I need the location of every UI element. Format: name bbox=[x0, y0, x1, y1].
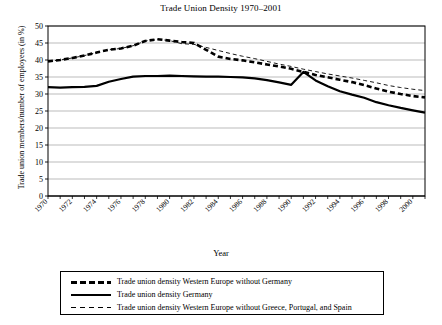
svg-text:1980: 1980 bbox=[154, 197, 171, 214]
svg-text:45: 45 bbox=[35, 39, 43, 48]
svg-text:1996: 1996 bbox=[349, 197, 366, 214]
svg-text:1990: 1990 bbox=[276, 197, 293, 214]
svg-text:2000: 2000 bbox=[397, 197, 414, 214]
svg-text:1992: 1992 bbox=[300, 197, 317, 214]
svg-text:1998: 1998 bbox=[373, 197, 390, 214]
svg-text:5: 5 bbox=[39, 175, 43, 184]
svg-text:1982: 1982 bbox=[178, 197, 195, 214]
x-axis-label: Year bbox=[0, 248, 442, 258]
chart-legend: Trade union density Western Europe witho… bbox=[60, 271, 384, 315]
svg-text:1976: 1976 bbox=[105, 197, 122, 214]
svg-text:1984: 1984 bbox=[203, 197, 220, 214]
svg-text:1972: 1972 bbox=[57, 197, 74, 214]
svg-text:50: 50 bbox=[35, 22, 43, 31]
svg-text:30: 30 bbox=[35, 90, 43, 99]
legend-label: Trade union density Western Europe witho… bbox=[117, 275, 292, 288]
legend-label: Trade union density Western Europe witho… bbox=[117, 301, 352, 314]
svg-text:1994: 1994 bbox=[324, 197, 341, 214]
svg-text:10: 10 bbox=[35, 158, 43, 167]
svg-text:35: 35 bbox=[35, 73, 43, 82]
svg-text:20: 20 bbox=[35, 124, 43, 133]
legend-label: Trade union density Germany bbox=[117, 288, 212, 301]
svg-text:1988: 1988 bbox=[251, 197, 268, 214]
svg-text:15: 15 bbox=[35, 141, 43, 150]
chart-container: Trade Union Density 1970–2001 Trade unio… bbox=[0, 0, 442, 325]
legend-swatch-thick-dashed bbox=[71, 281, 111, 284]
svg-text:1978: 1978 bbox=[130, 197, 147, 214]
svg-text:1986: 1986 bbox=[227, 197, 244, 214]
svg-text:1974: 1974 bbox=[81, 197, 98, 214]
legend-swatch-solid bbox=[71, 294, 111, 296]
svg-text:25: 25 bbox=[35, 107, 43, 116]
legend-swatch-thin-dashed bbox=[71, 307, 111, 308]
svg-text:1970: 1970 bbox=[32, 197, 49, 214]
svg-text:40: 40 bbox=[35, 56, 43, 65]
